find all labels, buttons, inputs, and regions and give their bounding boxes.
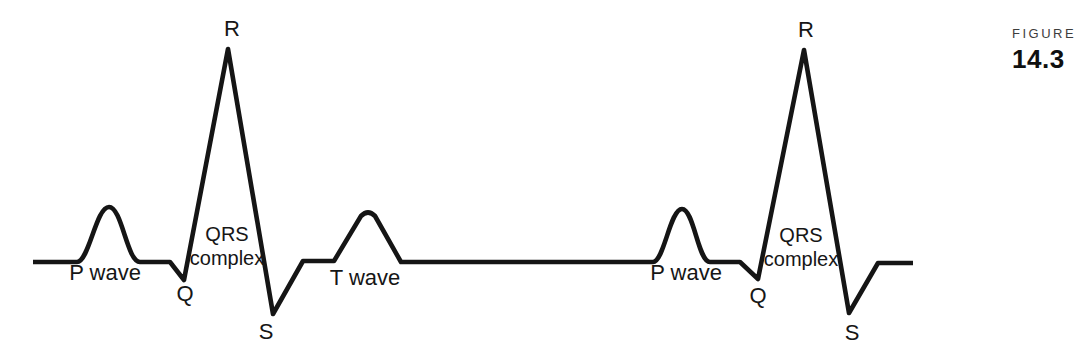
r-peak-label-1: R	[224, 17, 240, 41]
ecg-waveform-path	[33, 49, 913, 314]
qrs-complex-label-2-line1: QRS	[764, 223, 838, 247]
qrs-complex-label-1-line1: QRS	[190, 222, 264, 246]
r-peak-label-2: R	[798, 18, 814, 42]
figure-tag: FIGURE 14.3	[1012, 26, 1076, 75]
ecg-figure: R P wave Q QRS complex S T wave P wave Q…	[0, 0, 1079, 363]
t-wave-label: T wave	[330, 266, 401, 290]
s-label-2: S	[845, 321, 860, 345]
qrs-complex-label-2-line2: complex	[764, 247, 838, 271]
figure-kicker: FIGURE	[1012, 26, 1076, 41]
figure-number: 14.3	[1012, 44, 1076, 75]
qrs-complex-label-1-line2: complex	[190, 246, 264, 270]
p-wave-label-2: P wave	[650, 261, 722, 285]
qrs-complex-label-2: QRS complex	[764, 223, 838, 271]
s-label-1: S	[259, 320, 274, 344]
ecg-trace	[0, 0, 1079, 363]
qrs-complex-label-1: QRS complex	[190, 222, 264, 270]
q-label-2: Q	[749, 284, 766, 308]
p-wave-label-1: P wave	[69, 261, 141, 285]
q-label-1: Q	[176, 282, 193, 306]
